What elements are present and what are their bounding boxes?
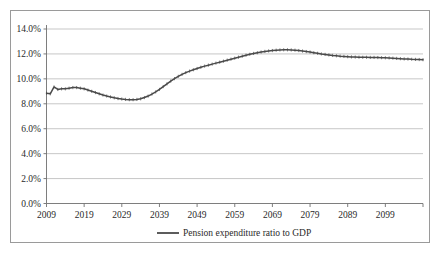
- legend-entry-label: Pension expenditure ratio to GDP: [183, 228, 311, 238]
- y-tick-label: 8.0%: [21, 99, 41, 109]
- gridlines-group: [47, 29, 424, 179]
- chart-frame: 0.0%2.0%4.0%6.0%8.0%10.0%12.0%14.0% 2009…: [10, 10, 430, 243]
- y-tick-label: 10.0%: [16, 74, 41, 84]
- y-tick-label: 12.0%: [16, 49, 41, 59]
- x-tick-label: 2089: [338, 210, 357, 220]
- y-tick-label: 4.0%: [21, 149, 41, 159]
- x-axis-tick-labels: 2009201920292039204920592069207920892099: [37, 210, 395, 220]
- x-tick-label: 2019: [75, 210, 94, 220]
- y-tick-label: 6.0%: [21, 124, 41, 134]
- x-tick-label: 2069: [263, 210, 282, 220]
- x-tick-label: 2039: [150, 210, 169, 220]
- x-tick-label: 2049: [188, 210, 207, 220]
- series-markers: [47, 48, 424, 101]
- series-pension-expenditure-ratio: [47, 48, 424, 101]
- pension-expenditure-line-chart: 0.0%2.0%4.0%6.0%8.0%10.0%12.0%14.0% 2009…: [11, 11, 429, 242]
- x-tick-label: 2099: [376, 210, 395, 220]
- x-tick-label: 2059: [225, 210, 244, 220]
- y-tick-label: 14.0%: [16, 24, 41, 34]
- y-tick-label: 2.0%: [21, 174, 41, 184]
- x-tick-marks-group: [47, 204, 424, 208]
- x-tick-label: 2079: [301, 210, 320, 220]
- y-tick-label: 0.0%: [21, 199, 41, 209]
- x-tick-label: 2029: [112, 210, 131, 220]
- x-tick-label: 2009: [37, 210, 56, 220]
- chart-legend: Pension expenditure ratio to GDP: [157, 228, 311, 238]
- y-axis-tick-labels: 0.0%2.0%4.0%6.0%8.0%10.0%12.0%14.0%: [16, 24, 41, 209]
